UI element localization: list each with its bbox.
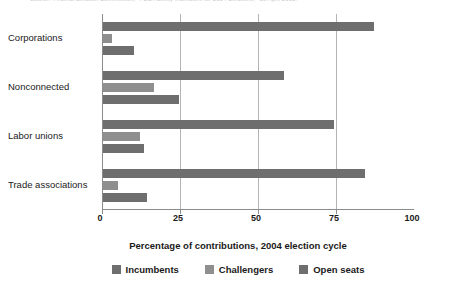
- bar-corporations-incumbents: [103, 22, 374, 31]
- legend-label: Incumbents: [126, 264, 179, 275]
- bar-nonconnected-challengers: [103, 83, 154, 92]
- legend-swatch-icon: [299, 265, 308, 274]
- legend-label: Open seats: [313, 264, 364, 275]
- x-tick-label-25: 25: [163, 213, 193, 223]
- bar-nonconnected-open-seats: [103, 95, 179, 104]
- legend-item-incumbents: Incumbents: [112, 264, 179, 275]
- x-tick-label-50: 50: [241, 213, 271, 223]
- x-axis-title: Percentage of contributions, 2004 electi…: [0, 240, 476, 251]
- chart-root: Source: Federal Election Commission, "FE…: [0, 0, 476, 296]
- gridline-50: [258, 14, 259, 210]
- category-label-corporations: Corporations: [8, 32, 98, 43]
- chart-legend: IncumbentsChallengersOpen seats: [0, 264, 476, 275]
- x-tick-label-0: 0: [85, 213, 115, 223]
- bar-labor-unions-open-seats: [103, 144, 144, 153]
- source-caption: Source: Federal Election Commission, "FE…: [30, 0, 297, 2]
- x-tick-label-75: 75: [319, 213, 349, 223]
- bar-corporations-challengers: [103, 34, 112, 43]
- bar-labor-unions-incumbents: [103, 120, 334, 129]
- category-label-trade-associations: Trade associations: [8, 179, 98, 190]
- legend-swatch-icon: [112, 265, 121, 274]
- x-tick-label-100: 100: [397, 213, 427, 223]
- bar-labor-unions-challengers: [103, 132, 140, 141]
- legend-item-challengers: Challengers: [205, 264, 273, 275]
- bar-trade-associations-open-seats: [103, 193, 147, 202]
- category-label-labor-unions: Labor unions: [8, 130, 98, 141]
- legend-item-open-seats: Open seats: [299, 264, 364, 275]
- bar-nonconnected-incumbents: [103, 71, 284, 80]
- bar-trade-associations-challengers: [103, 181, 118, 190]
- bar-trade-associations-incumbents: [103, 169, 365, 178]
- category-label-nonconnected: Nonconnected: [8, 81, 98, 92]
- gridline-25: [180, 14, 181, 210]
- legend-label: Challengers: [219, 264, 273, 275]
- gridline-75: [336, 14, 337, 210]
- legend-swatch-icon: [205, 265, 214, 274]
- bar-corporations-open-seats: [103, 46, 134, 55]
